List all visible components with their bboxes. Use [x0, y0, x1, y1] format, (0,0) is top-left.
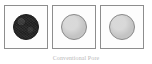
- light-disc-shape-a: [61, 14, 87, 40]
- row-leading-spacer: [0, 0, 4, 1]
- panel-light-disc-b: [100, 5, 144, 49]
- panel-spacer-2: [96, 0, 100, 1]
- panel-dark-disc: [4, 5, 48, 49]
- figure-container: Conventional Pore: [0, 0, 152, 64]
- figure-caption: Conventional Pore: [0, 54, 152, 62]
- panel-spacer-1: [48, 0, 52, 1]
- panel-light-disc-a: [52, 5, 96, 49]
- dark-disc-shape: [13, 14, 39, 40]
- light-disc-shape-b: [109, 14, 135, 40]
- panel-row: [0, 0, 152, 52]
